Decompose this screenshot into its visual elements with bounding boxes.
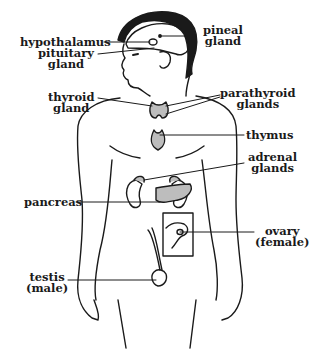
label-text: glands bbox=[248, 163, 297, 174]
label-adrenal-glands: adrenal glands bbox=[248, 152, 297, 174]
leg-right bbox=[190, 300, 196, 348]
kidney-left bbox=[127, 180, 142, 207]
face-profile bbox=[122, 44, 150, 96]
label-parathyroid-glands: parathyroid glands bbox=[220, 88, 296, 110]
adrenal-right bbox=[170, 176, 180, 182]
label-pituitary-gland: pituitary gland bbox=[38, 48, 94, 70]
torso-left bbox=[77, 98, 120, 320]
arm-inner-right bbox=[202, 160, 217, 300]
label-pineal-gland: pineal gland bbox=[203, 25, 243, 47]
vas-deferens bbox=[148, 228, 162, 270]
arm-inner-left bbox=[95, 160, 112, 300]
hair-shape bbox=[118, 12, 197, 78]
label-text: gland bbox=[38, 59, 94, 70]
leader-parathyroid-2 bbox=[166, 97, 220, 114]
chest-left bbox=[110, 146, 140, 158]
label-text: glands bbox=[220, 99, 296, 110]
leader-adrenal bbox=[144, 163, 244, 180]
label-text: gland bbox=[48, 103, 95, 114]
label-pancreas: pancreas bbox=[24, 197, 82, 208]
leader-thyroid bbox=[98, 98, 152, 106]
ovary-shape bbox=[166, 223, 188, 248]
label-text: pancreas bbox=[24, 197, 82, 208]
endocrine-diagram: hypothalamus pituitary gland pineal glan… bbox=[0, 0, 317, 351]
ear bbox=[160, 51, 170, 68]
chest-right bbox=[176, 146, 204, 158]
thymus-gland bbox=[151, 130, 164, 150]
thyroid-gland bbox=[150, 102, 168, 118]
label-text: gland bbox=[203, 36, 243, 47]
torso-right bbox=[196, 96, 242, 320]
label-ovary: ovary (female) bbox=[255, 226, 309, 248]
eye bbox=[133, 54, 138, 55]
label-thymus: thymus bbox=[246, 130, 293, 141]
adrenal-left bbox=[134, 176, 144, 182]
label-thyroid-gland: thyroid gland bbox=[48, 92, 95, 114]
label-text: thymus bbox=[246, 130, 293, 141]
testis-shape bbox=[152, 270, 167, 286]
leg-left bbox=[118, 300, 126, 348]
label-text: (male) bbox=[26, 283, 68, 294]
label-testis: testis (male) bbox=[26, 272, 68, 294]
label-text: (female) bbox=[255, 237, 309, 248]
